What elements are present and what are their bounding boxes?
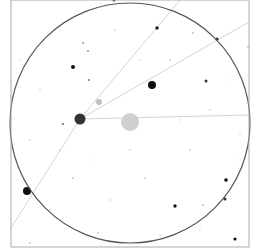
star — [173, 204, 176, 207]
star — [205, 80, 208, 83]
star — [19, 59, 20, 60]
star — [179, 119, 180, 120]
star — [71, 65, 75, 69]
star — [29, 139, 30, 140]
star — [89, 159, 90, 160]
star — [88, 79, 90, 81]
star — [159, 234, 160, 235]
star — [169, 59, 170, 60]
star — [209, 109, 210, 110]
star — [96, 99, 102, 105]
target-object — [121, 113, 139, 131]
star — [202, 204, 204, 206]
star — [29, 242, 31, 244]
star — [155, 26, 159, 30]
star — [224, 178, 228, 182]
star — [189, 149, 190, 150]
star — [62, 123, 64, 125]
star — [72, 177, 74, 179]
star — [233, 237, 236, 240]
star — [199, 229, 200, 230]
star — [139, 59, 140, 60]
star — [239, 134, 240, 135]
star — [114, 29, 115, 30]
star — [144, 177, 146, 179]
star — [75, 114, 86, 125]
star — [239, 159, 240, 160]
star — [129, 149, 130, 150]
star — [192, 32, 194, 34]
star — [109, 199, 110, 200]
star — [39, 89, 40, 90]
star — [82, 42, 84, 44]
star — [59, 149, 60, 150]
star — [49, 209, 50, 210]
star — [87, 50, 89, 52]
star — [229, 79, 230, 80]
star — [59, 29, 60, 30]
star — [148, 81, 156, 89]
star — [97, 232, 99, 234]
star-chart — [0, 0, 259, 251]
